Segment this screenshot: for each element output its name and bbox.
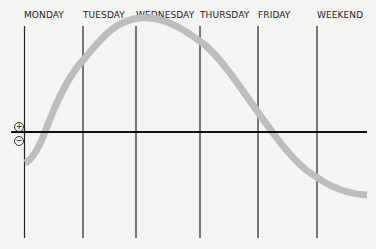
chart-canvas — [0, 0, 376, 249]
mood-curve — [25, 18, 367, 195]
minus-icon: − — [14, 136, 24, 146]
plus-icon: + — [14, 122, 24, 132]
